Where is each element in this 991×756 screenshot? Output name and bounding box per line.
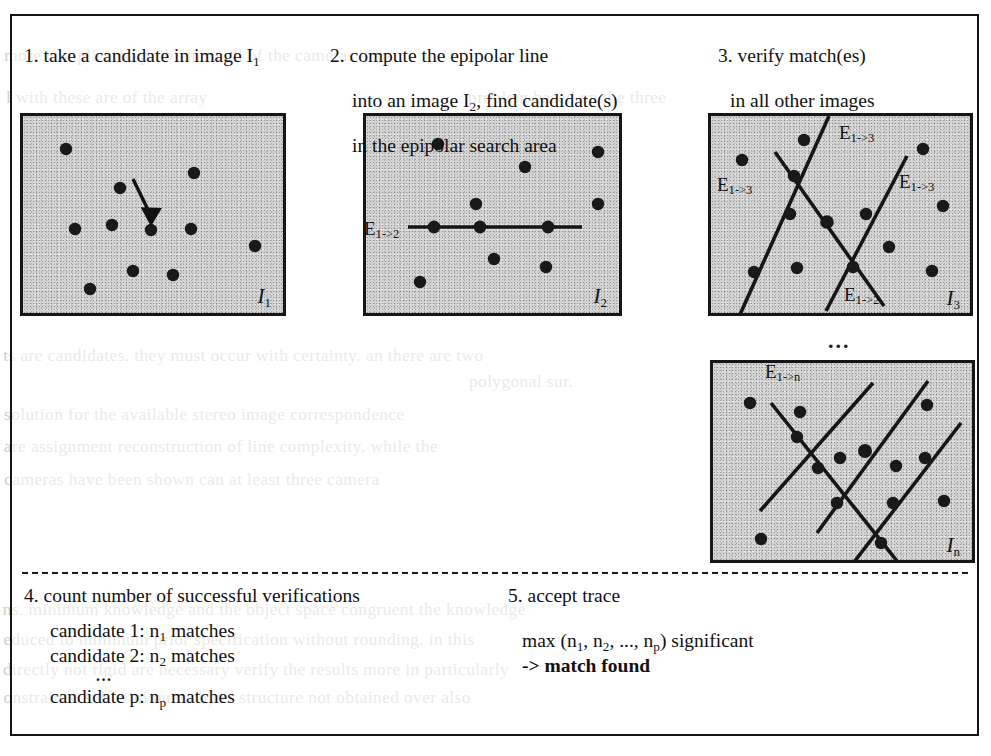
panel-i2-label: I2	[593, 284, 607, 309]
panel-in-label-subscript: n	[953, 544, 960, 559]
epipolar-line-a-in	[760, 383, 873, 511]
formula-sub-3: p	[653, 639, 660, 654]
epi-e-sub: 1->2	[376, 227, 400, 241]
step-2-caption: 2. compute the epipolar line into an ima…	[330, 22, 617, 180]
step-1-subscript: 1	[253, 53, 260, 68]
candidate-2-text-b: matches	[166, 645, 235, 666]
panel-i3-label-subscript: 3	[953, 297, 960, 312]
candidate-1-subscript: 1	[159, 629, 166, 644]
step-4-title: 4. count number of successful verificati…	[24, 584, 360, 608]
formula-part-b: , n	[583, 630, 603, 651]
epi-e-base: E	[899, 171, 911, 192]
step-1-caption: 1. take a candidate in image I1	[24, 22, 260, 67]
step-5-block: 5. accept trace max (n1, n2, ..., np) si…	[508, 584, 754, 678]
epi-e-base: E	[364, 218, 376, 239]
step-4-candidate-1: candidate 1: n1 matches	[50, 618, 360, 643]
step-4-ellipsis: ...	[96, 668, 360, 684]
candidate-2-text-a: candidate 2: n	[50, 645, 159, 666]
panel-i1-label-subscript: 1	[264, 295, 271, 310]
image-panel-i1: I1	[20, 113, 286, 316]
candidate-p-text-a: candidate p: n	[50, 686, 159, 707]
formula-part-a: max (n	[522, 630, 577, 651]
panel-i1-label: I1	[257, 284, 271, 309]
candidate-p-text-b: matches	[166, 686, 235, 707]
epi-e-base: E	[717, 174, 729, 195]
step-5-result: -> match found	[522, 653, 754, 678]
panel-i1-features	[23, 116, 286, 316]
candidate-p-subscript: p	[159, 695, 166, 710]
formula-part-c: , ..., n	[609, 630, 653, 651]
epipolar-label-e1-2-i2: E1->2	[364, 218, 399, 240]
step-2-line-1: 2. compute the epipolar line	[330, 45, 617, 68]
step-4-candidate-2: candidate 2: n2 matches	[50, 643, 360, 668]
epi-e-sub: 1->n	[777, 370, 801, 384]
step-4-candidate-p: candidate p: np matches	[50, 684, 360, 709]
step-5-title: 5. accept trace	[508, 584, 754, 608]
panels-continuation-ellipsis: ...	[828, 328, 851, 354]
epipolar-line-a-i3	[738, 116, 829, 316]
step-3-line-1: 3. verify match(es)	[718, 45, 875, 68]
image-panel-i3: E1->3 E1->3 E1->3 E1->2 I3	[708, 113, 973, 316]
feature-dots-in	[744, 397, 950, 549]
epi-e-sub: 1->2	[856, 293, 880, 307]
epi-e-sub: 1->3	[911, 180, 935, 194]
step-3-caption: 3. verify match(es) in all other images	[718, 22, 875, 135]
candidate-1-text-a: candidate 1: n	[50, 620, 159, 641]
epi-e-base: E	[844, 284, 856, 305]
candidate-1-text-b: matches	[166, 620, 235, 641]
epipolar-label-e1-n: E1->n	[765, 361, 800, 383]
step-4-block: 4. count number of successful verificati…	[24, 584, 360, 709]
candidate-pointer-arrow-icon	[133, 179, 159, 223]
epipolar-label-e1-3-left: E1->3	[717, 174, 752, 196]
step-1-text: 1. take a candidate in image I	[24, 45, 253, 66]
section-divider	[22, 572, 968, 574]
feature-dots-i1	[60, 143, 261, 295]
panel-in-features	[713, 363, 975, 563]
panel-i2-label-subscript: 2	[600, 295, 607, 310]
epipolar-label-e1-3-right: E1->3	[899, 171, 934, 193]
candidate-2-subscript: 2	[159, 654, 166, 669]
epi-e-sub: 1->3	[729, 183, 753, 197]
step-5-formula: max (n1, n2, ..., np) significant	[522, 628, 754, 653]
epipolar-line-c-in	[817, 381, 928, 533]
panel-i3-features	[711, 116, 973, 316]
image-panel-in: E1->n In	[710, 360, 975, 563]
step-2-line-3: in the epipolar search area	[352, 135, 617, 158]
step-3-line-2: in all other images	[730, 90, 875, 113]
formula-part-d: ) significant	[660, 630, 754, 651]
epipolar-label-e1-2-i3: E1->2	[844, 284, 879, 306]
epi-e-base: E	[765, 361, 777, 382]
step-2-line-2a: into an image I	[352, 90, 470, 111]
step-2-line-2b: , find candidate(s)	[476, 90, 617, 111]
step-2-line-2: into an image I2, find candidate(s)	[352, 90, 617, 113]
epipolar-line-d-in	[851, 423, 961, 563]
panel-in-label: In	[946, 533, 960, 558]
panel-i3-label: I3	[946, 286, 960, 311]
